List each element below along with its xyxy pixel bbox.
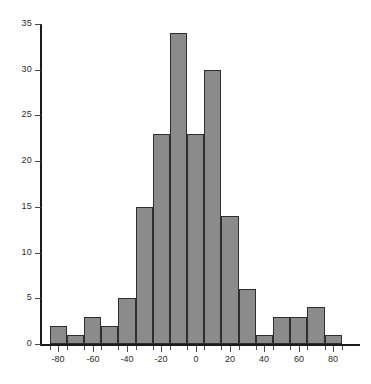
- histogram-bar: [221, 216, 238, 344]
- x-axis-tick: [127, 346, 128, 352]
- x-axis-tick: [93, 346, 94, 352]
- histogram-bar: [136, 207, 153, 344]
- x-axis-minor-tick: [84, 346, 85, 350]
- histogram-bar: [50, 326, 67, 344]
- x-axis-minor-tick: [50, 346, 51, 350]
- x-axis-tick-label: 60: [284, 354, 314, 364]
- y-axis-tick: [35, 70, 41, 71]
- x-axis-minor-tick: [342, 346, 343, 350]
- x-axis-minor-tick: [221, 346, 222, 350]
- x-axis-minor-tick: [273, 346, 274, 350]
- y-axis-tick: [35, 115, 41, 116]
- x-axis-tick-label: -80: [43, 354, 73, 364]
- x-axis-minor-tick: [239, 346, 240, 350]
- x-axis-tick: [264, 346, 265, 352]
- x-axis-tick: [161, 346, 162, 352]
- x-axis-tick-label: 0: [181, 354, 211, 364]
- histogram-bar: [204, 70, 221, 344]
- x-axis-minor-tick: [307, 346, 308, 350]
- y-axis-tick: [35, 207, 41, 208]
- y-axis-tick: [35, 24, 41, 25]
- x-axis-tick-label: -40: [112, 354, 142, 364]
- histogram-bar: [101, 326, 118, 344]
- y-axis-tick-label: 30: [4, 65, 32, 74]
- histogram-bar: [153, 134, 170, 344]
- histogram-bar: [325, 335, 342, 344]
- histogram-bar: [170, 33, 187, 344]
- y-axis-tick-label: 5: [4, 293, 32, 302]
- y-axis-tick: [35, 344, 41, 345]
- x-axis-tick: [58, 346, 59, 352]
- x-axis-tick: [230, 346, 231, 352]
- histogram-bar: [187, 134, 204, 344]
- x-axis-minor-tick: [118, 346, 119, 350]
- x-axis-tick-label: 20: [215, 354, 245, 364]
- histogram-bar: [67, 335, 84, 344]
- x-axis-minor-tick: [325, 346, 326, 350]
- histogram-bar: [290, 317, 307, 344]
- x-axis-minor-tick: [170, 346, 171, 350]
- histogram-bar: [118, 298, 135, 344]
- histogram-bar: [239, 289, 256, 344]
- y-axis-tick-label: 20: [4, 156, 32, 165]
- x-axis-tick-label: -60: [78, 354, 108, 364]
- x-axis-tick: [196, 346, 197, 352]
- x-axis-minor-tick: [290, 346, 291, 350]
- x-axis-tick-label: 80: [318, 354, 348, 364]
- x-axis-minor-tick: [136, 346, 137, 350]
- x-axis-minor-tick: [67, 346, 68, 350]
- x-axis-line: [40, 344, 360, 346]
- y-axis-tick-label: 25: [4, 110, 32, 119]
- y-axis-tick: [35, 161, 41, 162]
- x-axis-tick-label: 40: [249, 354, 279, 364]
- x-axis-minor-tick: [153, 346, 154, 350]
- y-axis-tick: [35, 253, 41, 254]
- y-axis-tick-label: 0: [4, 339, 32, 348]
- x-axis-minor-tick: [101, 346, 102, 350]
- x-axis-tick-label: -20: [146, 354, 176, 364]
- x-axis-tick: [333, 346, 334, 352]
- y-axis-tick-label: 10: [4, 248, 32, 257]
- x-axis-tick: [299, 346, 300, 352]
- histogram-bar: [273, 317, 290, 344]
- histogram-bar: [256, 335, 273, 344]
- y-axis-tick: [35, 298, 41, 299]
- x-axis-minor-tick: [256, 346, 257, 350]
- histogram-chart: 05101520253035 -80-60-40-20020406080: [0, 0, 371, 384]
- x-axis-minor-tick: [204, 346, 205, 350]
- bars-layer: [0, 0, 371, 346]
- histogram-bar: [307, 307, 324, 344]
- y-axis-tick-label: 15: [4, 202, 32, 211]
- x-axis-minor-tick: [187, 346, 188, 350]
- histogram-bar: [84, 317, 101, 344]
- y-axis-tick-label: 35: [4, 19, 32, 28]
